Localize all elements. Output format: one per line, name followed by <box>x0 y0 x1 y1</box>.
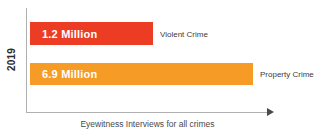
y-axis-line <box>26 8 27 112</box>
series-label-property-crime: Property Crime <box>260 70 314 79</box>
bar-value-label-violent-crime: 1.2 Million <box>30 28 97 40</box>
x-axis-arrow-icon <box>267 108 274 116</box>
x-axis-title: Eyewitness Interviews for all crimes <box>26 119 269 129</box>
y-axis-title: 2019 <box>6 40 17 80</box>
x-axis-line <box>26 112 269 113</box>
bar-property-crime: 6.9 Million <box>30 63 253 85</box>
series-label-violent-crime: Violent Crime <box>160 30 208 39</box>
bar-violent-crime: 1.2 Million <box>30 22 153 45</box>
bar-value-label-property-crime: 6.9 Million <box>30 68 97 80</box>
bar-chart: 2019 1.2 Million Violent Crime 6.9 Milli… <box>0 0 321 138</box>
